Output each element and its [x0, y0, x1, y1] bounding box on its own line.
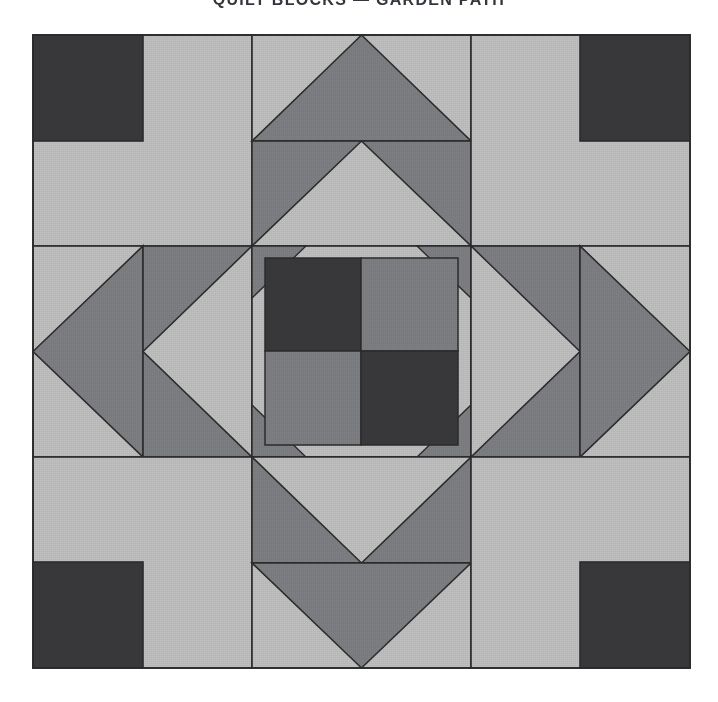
unit-corner-bottom-left: [33, 457, 252, 668]
quilt-block-figure: [0, 0, 718, 702]
unit-corner-top-left: [33, 35, 252, 246]
unit-edge-top-center: [252, 35, 471, 246]
unit-edge-middle-left: [33, 246, 252, 457]
page-root: QUILT BLOCKS — GARDEN PATH: [0, 0, 718, 702]
center-patch-top-left: [265, 258, 361, 351]
center-patch-top-right: [361, 258, 458, 351]
unit-edge-bottom-center: [252, 457, 471, 668]
unit-corner-top-right: [471, 35, 690, 246]
unit-center-four-patch: [252, 246, 471, 457]
unit-edge-middle-right: [471, 246, 690, 457]
corner-bottom-right-dark-square: [580, 562, 690, 668]
corner-top-right-dark-square: [580, 35, 690, 141]
unit-corner-bottom-right: [471, 457, 690, 668]
corner-top-left-dark-square: [33, 35, 143, 141]
quilt-block-svg: [0, 0, 718, 702]
corner-bottom-left-dark-square: [33, 562, 143, 668]
center-patch-bottom-right: [361, 351, 458, 445]
center-patch-bottom-left: [265, 351, 361, 445]
